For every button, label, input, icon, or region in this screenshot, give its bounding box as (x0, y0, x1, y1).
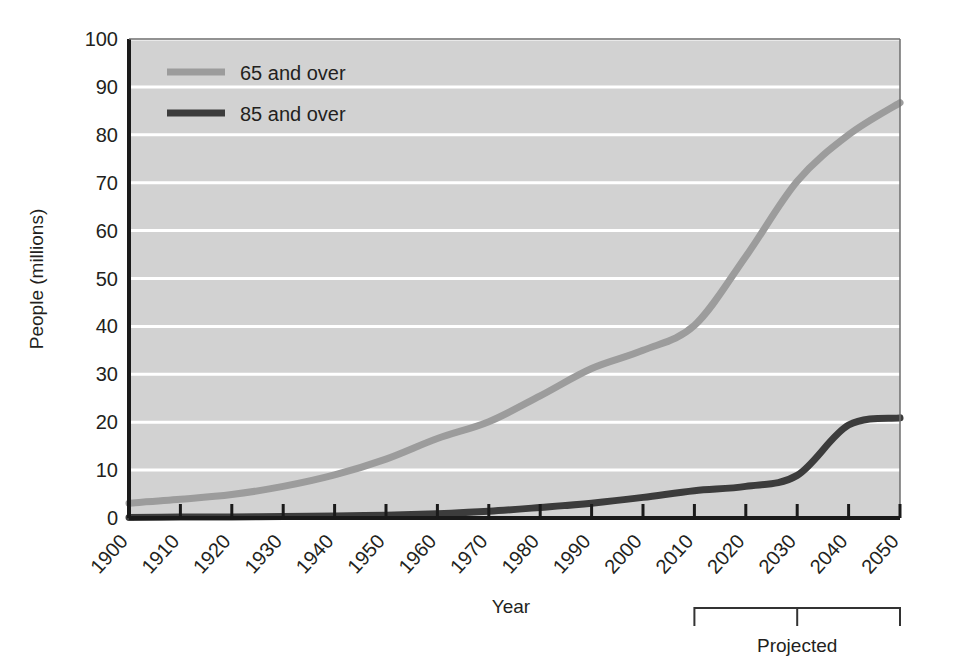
x-tick-label: 1970 (446, 530, 492, 578)
x-tick-label: 2030 (754, 530, 800, 578)
y-tick-label: 80 (96, 124, 118, 146)
x-tick-label: 2010 (651, 530, 697, 578)
y-axis-tick-labels: 0102030405060708090100 (85, 28, 118, 529)
legend-label-65-and-over: 65 and over (240, 62, 346, 84)
x-tick-label: 1920 (189, 530, 235, 578)
x-tick-label: 2050 (857, 530, 903, 578)
line-chart: 0102030405060708090100 19001910192019301… (0, 0, 955, 672)
x-tick-label: 1900 (86, 530, 132, 578)
x-tick-label: 2040 (805, 530, 851, 578)
x-axis-tick-labels: 1900191019201930194019501960197019801990… (86, 530, 903, 578)
legend-label-85-and-over: 85 and over (240, 103, 346, 125)
y-tick-label: 40 (96, 315, 118, 337)
x-tick-label: 1910 (137, 530, 183, 578)
x-tick-label: 1990 (548, 530, 594, 578)
x-tick-label: 1930 (240, 530, 286, 578)
y-tick-label: 30 (96, 363, 118, 385)
projected-label: Projected (757, 635, 837, 656)
x-tick-label: 1950 (343, 530, 389, 578)
y-tick-label: 60 (96, 220, 118, 242)
x-tick-label: 2020 (703, 530, 749, 578)
y-tick-label: 10 (96, 459, 118, 481)
y-tick-label: 20 (96, 411, 118, 433)
x-tick-label: 2000 (600, 530, 646, 578)
x-tick-label: 1940 (291, 530, 337, 578)
y-tick-label: 70 (96, 172, 118, 194)
x-axis-title: Year (492, 596, 531, 617)
projected-bracket (694, 608, 900, 626)
y-tick-label: 50 (96, 268, 118, 290)
x-tick-label: 1960 (394, 530, 440, 578)
chart-figure: 0102030405060708090100 19001910192019301… (0, 0, 955, 672)
y-tick-label: 100 (85, 28, 118, 50)
y-tick-label: 0 (107, 507, 118, 529)
y-axis-title: People (millions) (26, 209, 47, 349)
x-tick-label: 1980 (497, 530, 543, 578)
y-tick-label: 90 (96, 76, 118, 98)
